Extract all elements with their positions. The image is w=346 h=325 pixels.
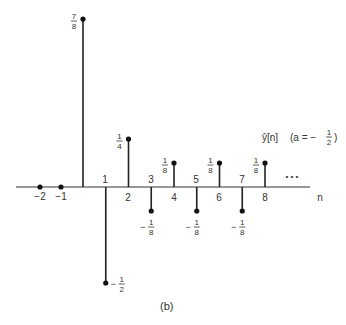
svg-text:2: 2 (120, 285, 125, 294)
svg-text:1: 1 (327, 128, 332, 137)
tick-label: 1 (102, 174, 108, 185)
value-label: 18 (253, 156, 259, 175)
parameter-prefix: (a = − (290, 132, 316, 143)
svg-text:−: − (110, 279, 115, 289)
stem-marker (217, 160, 222, 165)
tick-label: 3 (148, 174, 154, 185)
stem-marker (126, 136, 131, 141)
svg-text:−: − (140, 222, 145, 232)
stem-marker (103, 280, 108, 285)
svg-text:8: 8 (72, 22, 77, 31)
stem-marker (58, 184, 63, 189)
svg-text:4: 4 (117, 142, 122, 151)
tick-label: 4 (171, 192, 177, 203)
parameter-suffix: ) (334, 132, 337, 143)
svg-text:8: 8 (254, 166, 259, 175)
stem-marker (149, 208, 154, 213)
value-label: 78 (71, 12, 77, 31)
value-label: 14 (117, 132, 123, 151)
svg-text:1: 1 (254, 156, 259, 165)
svg-text:−: − (185, 222, 190, 232)
stem-marker (240, 208, 245, 213)
tick-label: 8 (262, 192, 268, 203)
tick-label: 2 (125, 192, 131, 203)
tick-label: −1 (55, 191, 67, 202)
value-label: −12 (110, 275, 124, 294)
svg-text:8: 8 (195, 228, 200, 237)
value-label: −18 (185, 218, 199, 237)
svg-text:8: 8 (208, 166, 213, 175)
stem-marker (194, 208, 199, 213)
signal-name: ŷ[n] (262, 132, 278, 143)
value-label: 18 (162, 156, 168, 175)
stem-marker (171, 160, 176, 165)
svg-text:−: − (231, 222, 236, 232)
value-label: −18 (231, 218, 245, 237)
svg-text:1: 1 (208, 156, 213, 165)
svg-text:1: 1 (120, 275, 125, 284)
svg-text:8: 8 (163, 166, 168, 175)
tick-label: 7 (239, 174, 245, 185)
parameter-fraction: 12 (326, 128, 332, 147)
svg-text:8: 8 (240, 228, 245, 237)
stem-plot: n78−1214−1818−1818−1818−2−112345678• • •… (0, 0, 346, 325)
continuation-dots: • • • (286, 172, 299, 181)
svg-text:1: 1 (195, 218, 200, 227)
svg-text:1: 1 (163, 156, 168, 165)
caption: (b) (160, 300, 173, 312)
tick-label: 5 (193, 174, 199, 185)
svg-text:2: 2 (327, 138, 332, 147)
svg-text:1: 1 (117, 132, 122, 141)
svg-text:1: 1 (240, 218, 245, 227)
svg-text:8: 8 (149, 228, 154, 237)
x-axis-label: n (317, 192, 323, 203)
svg-text:7: 7 (72, 12, 77, 21)
value-label: 18 (208, 156, 214, 175)
stem-marker (80, 16, 85, 21)
tick-label: 6 (216, 192, 222, 203)
tick-label: −2 (34, 191, 46, 202)
value-label: −18 (140, 218, 154, 237)
stem-marker (262, 160, 267, 165)
stem-marker (37, 184, 42, 189)
svg-text:1: 1 (149, 218, 154, 227)
